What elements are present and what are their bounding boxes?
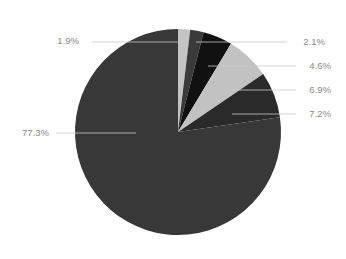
slice-label: 1.9% bbox=[57, 35, 79, 46]
slice-label: 2.1% bbox=[303, 36, 325, 47]
slice-label: 6.9% bbox=[309, 84, 331, 95]
pie-chart: 1.9%2.1%4.6%6.9%7.2%77.3% bbox=[0, 0, 346, 259]
slice-label: 77.3% bbox=[22, 127, 49, 138]
slice-label: 7.2% bbox=[309, 108, 331, 119]
pie-slices bbox=[75, 29, 281, 235]
slice-label: 4.6% bbox=[309, 60, 331, 71]
